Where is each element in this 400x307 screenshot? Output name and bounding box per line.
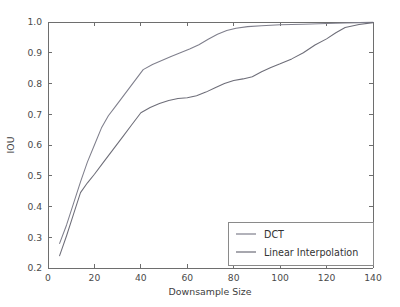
y-tick-label: 0.8 — [27, 78, 42, 89]
line-chart: 0.20.30.40.50.60.70.80.91.0 020406080100… — [0, 0, 400, 307]
legend-box — [228, 222, 373, 265]
x-tick-label: 120 — [318, 272, 336, 283]
y-axis-label: IOU — [5, 136, 16, 153]
y-tick-label: 0.7 — [27, 109, 42, 120]
series-line-linear-interpolation — [60, 23, 373, 256]
x-tick-label: 100 — [271, 272, 289, 283]
x-tick-label: 20 — [89, 272, 101, 283]
legend-label-dct: DCT — [264, 229, 284, 240]
y-tick-label: 0.6 — [27, 139, 42, 150]
x-axis-label: Downsample Size — [169, 286, 252, 297]
figure-canvas: 0.20.30.40.50.60.70.80.91.0 020406080100… — [0, 0, 400, 307]
y-tick-label: 0.5 — [27, 170, 42, 181]
x-tick-label: 140 — [364, 272, 382, 283]
y-tick-label: 0.4 — [27, 201, 42, 212]
y-tick-label: 0.2 — [27, 262, 42, 273]
legend-label-linear-interpolation: Linear Interpolation — [264, 247, 358, 258]
series-group — [60, 22, 373, 255]
x-tick-label: 60 — [181, 272, 193, 283]
x-tick-label: 40 — [135, 272, 147, 283]
legend[interactable]: DCT Linear Interpolation — [228, 222, 373, 265]
y-tick-label: 0.9 — [27, 47, 42, 58]
series-line-dct — [60, 22, 373, 243]
x-tick-label: 0 — [45, 272, 51, 283]
x-tick-label: 80 — [228, 272, 240, 283]
y-tick-label: 0.3 — [27, 232, 42, 243]
y-tick-label: 1.0 — [27, 16, 42, 27]
